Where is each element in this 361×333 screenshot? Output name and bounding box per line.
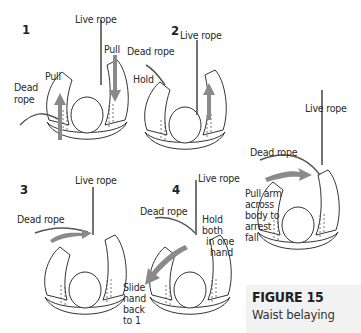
label-pull-left: Pull [45, 70, 61, 82]
label-dead-rope-4: Dead rope [140, 205, 187, 217]
label-live-rope-4: Live rope [198, 172, 240, 184]
label-pull-right: Pull [104, 43, 120, 55]
label-live-rope-5: Live rope [305, 102, 347, 114]
panel-number-3: 3 [20, 182, 28, 197]
panel-2-figure [145, 70, 227, 149]
label-hold-both-4: hand [210, 246, 233, 258]
label-hold: Hold [133, 73, 154, 85]
label-arrest-5: fall [245, 231, 259, 243]
label-live-rope-2: Live rope [180, 29, 222, 41]
figure-subtitle: Waist belaying [252, 307, 335, 322]
figure-caption: FIGURE 15 Waist belaying [246, 285, 361, 333]
label-dead-rope-2: Dead rope [127, 45, 174, 57]
label-dead-rope-3: Dead rope [17, 213, 64, 225]
label-slide-4: to 1 [123, 314, 141, 326]
label-dead-rope-1b: rope [14, 93, 34, 105]
label-dead-rope-1a: Dead [14, 81, 38, 93]
label-live-rope-1: Live rope [75, 13, 117, 25]
panel-3-figure [45, 235, 127, 314]
belay-illustration [0, 0, 361, 333]
figure-title: FIGURE 15 [252, 289, 323, 305]
arrest-arrow-icon [265, 168, 312, 182]
panel-number-2: 2 [171, 23, 179, 38]
label-live-rope-3: Live rope [75, 174, 117, 186]
right-arrow-icon [50, 229, 92, 243]
panel-number-4: 4 [172, 182, 180, 197]
panel-number-1: 1 [22, 22, 30, 37]
label-dead-rope-5: Dead rope [250, 146, 297, 158]
